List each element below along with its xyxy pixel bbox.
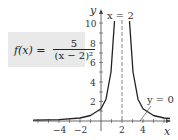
horizontal-asymptote-label: y = 0 (146, 94, 174, 105)
svg-text:8: 8 (90, 39, 96, 49)
vertical-asymptote-label: x = 2 (107, 10, 134, 21)
svg-text:4: 4 (140, 125, 146, 135)
curve-left-branch (33, 21, 115, 120)
x-tick-labels: −4 −2 2 4 (53, 125, 146, 135)
x-axis-label: x (164, 125, 171, 138)
svg-text:−4: −4 (53, 125, 67, 135)
graph: −4 −2 2 4 2 4 6 8 10 y x x = 2 y = 0 (0, 0, 178, 140)
svg-text:10: 10 (85, 19, 97, 29)
svg-text:2: 2 (119, 125, 125, 135)
svg-text:2: 2 (90, 97, 96, 107)
svg-text:6: 6 (90, 58, 96, 68)
svg-text:−2: −2 (74, 125, 87, 135)
y-tick-labels: 2 4 6 8 10 (85, 19, 97, 107)
y-axis (99, 9, 103, 131)
y-axis-label: y (89, 4, 97, 17)
svg-text:4: 4 (90, 78, 96, 88)
